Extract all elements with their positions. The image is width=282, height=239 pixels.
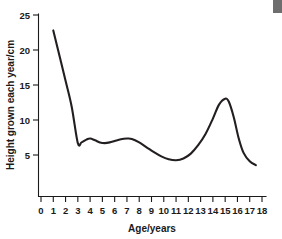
y-tick-label-10: 10	[19, 115, 30, 126]
y-tick-label-5: 5	[25, 150, 31, 161]
x-tick-label-6: 6	[112, 205, 117, 216]
x-tick-label-4: 4	[87, 205, 93, 216]
x-axis-title: Age/years	[128, 223, 176, 234]
x-tick-label-3: 3	[75, 205, 80, 216]
x-tick-label-9: 9	[149, 205, 154, 216]
x-tick-label-0: 0	[38, 205, 43, 216]
y-axis: 25 20 15 10 5 Height grown each year/cm	[5, 10, 39, 197]
x-tick-label-5: 5	[100, 205, 106, 216]
x-axis: 0123456789101112131415161718 Age/years	[38, 197, 267, 235]
x-tick-label-17: 17	[244, 205, 255, 216]
x-tick-label-13: 13	[195, 205, 206, 216]
x-tick-label-1: 1	[51, 205, 57, 216]
y-tick-label-15: 15	[19, 80, 30, 91]
x-tick-label-8: 8	[137, 205, 142, 216]
y-tick-label-25: 25	[19, 10, 30, 21]
x-tick-labels: 0123456789101112131415161718	[38, 205, 267, 216]
x-tick-label-12: 12	[183, 205, 194, 216]
x-tick-label-7: 7	[124, 205, 129, 216]
chart-svg: 25 20 15 10 5 Height grown each year/cm …	[0, 0, 282, 239]
x-tick-label-16: 16	[232, 205, 243, 216]
growth-velocity-chart: 25 20 15 10 5 Height grown each year/cm …	[0, 0, 282, 239]
page-corner-mark	[273, 0, 282, 13]
x-tick-label-14: 14	[208, 205, 219, 216]
x-tick-label-10: 10	[158, 205, 169, 216]
x-tick-label-2: 2	[63, 205, 68, 216]
x-tick-label-18: 18	[257, 205, 268, 216]
growth-velocity-line	[53, 30, 256, 165]
y-axis-title: Height grown each year/cm	[5, 40, 16, 170]
x-tick-label-11: 11	[171, 205, 182, 216]
x-tick-label-15: 15	[220, 205, 231, 216]
x-tick-marks	[41, 197, 262, 203]
y-tick-label-20: 20	[19, 45, 30, 56]
